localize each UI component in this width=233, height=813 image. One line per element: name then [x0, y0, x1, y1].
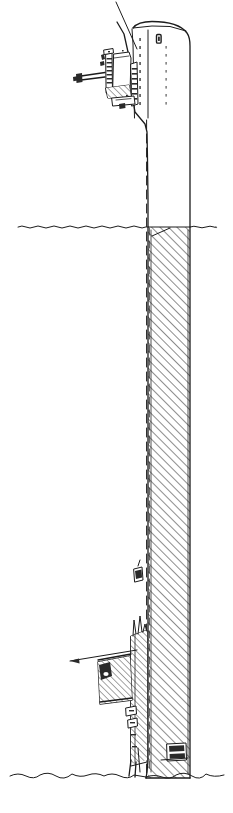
- machinery-arm-top: [81, 73, 105, 77]
- submerged-hatched-section: [148, 227, 190, 778]
- rivet-seam-b: [166, 46, 167, 105]
- hatch-plate-mark-core: [158, 37, 160, 42]
- lower-flange-spike-1: [133, 620, 136, 636]
- lower-flange-spike-2: [138, 616, 142, 634]
- technical-drawing-svg: [0, 0, 233, 813]
- seabed-group: [10, 773, 224, 778]
- machinery-foot-block: [119, 103, 126, 109]
- lower-leader-arrowhead: [70, 658, 80, 663]
- waterline-right: [190, 226, 217, 228]
- drawing-canvas: [0, 0, 233, 813]
- lower-attachment-detail: [94, 616, 152, 777]
- waterline-left: [18, 226, 146, 228]
- rivet-seam-a: [139, 38, 140, 105]
- shaft-hatch-fill: [148, 227, 190, 778]
- machinery-arm-tip: [73, 76, 77, 81]
- crown-top-edge: [133, 26, 186, 31]
- lower-block-nodule-hole: [103, 672, 108, 676]
- machinery-small-block-2: [100, 61, 105, 66]
- mid-shaft-fitting: [134, 560, 143, 582]
- lower-flange-foot-left: [129, 760, 131, 776]
- machinery-arm-bottom: [81, 77, 105, 80]
- mid-fitting-core: [135, 570, 142, 580]
- rivet-seam-columns: [139, 35, 166, 106]
- seabed-left: [10, 773, 146, 778]
- mid-fitting-stem: [138, 560, 140, 566]
- base-fitting-bar-1: [169, 745, 184, 752]
- upper-machinery-assembly: [73, 49, 138, 110]
